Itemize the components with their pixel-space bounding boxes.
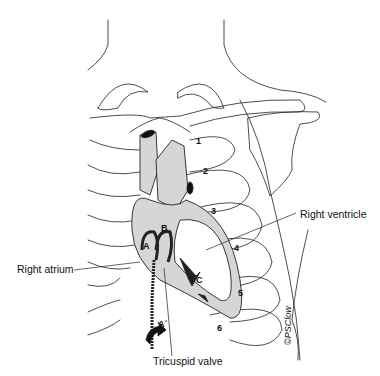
neck-outline-right xyxy=(224,20,326,102)
artist-signature: ©PSClow xyxy=(283,306,293,345)
neck-outline-left xyxy=(88,20,108,70)
rib-number-2: 2 xyxy=(203,167,208,176)
rib-number-4: 4 xyxy=(234,244,239,253)
rib-number-1: 1 xyxy=(196,137,201,146)
marker-c: C xyxy=(196,276,203,285)
superior-vena-cava xyxy=(140,132,158,195)
rib-number-3: 3 xyxy=(211,207,216,216)
rib-number-5: 5 xyxy=(238,289,243,298)
leader-right-atrium xyxy=(74,262,140,270)
rib-number-6: 6 xyxy=(217,324,222,333)
scapula xyxy=(248,112,320,196)
sternum-top xyxy=(130,118,190,132)
clavicle-left xyxy=(98,84,148,110)
anatomy-diagram xyxy=(0,0,380,376)
clavicle-right xyxy=(178,84,224,108)
clavicle-bar xyxy=(90,100,305,126)
label-right-atrium: Right atrium xyxy=(17,264,74,275)
marker-a: A xyxy=(143,242,150,251)
label-right-ventricle: Right ventricle xyxy=(300,209,367,220)
marker-a-prime: A´ xyxy=(158,320,168,329)
aorta xyxy=(156,140,188,210)
marker-b: B xyxy=(161,224,168,233)
label-tricuspid-valve: Tricuspid valve xyxy=(153,356,223,367)
